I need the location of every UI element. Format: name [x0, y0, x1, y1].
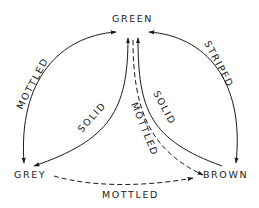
- diagram-svg: GREEN GREY BROWN MOTTLED STRIPED SOLID S…: [0, 0, 259, 208]
- label-grey-green-solid: SOLID: [75, 100, 108, 135]
- label-brown-green-solid: SOLID: [151, 89, 178, 127]
- node-grey: GREY: [14, 169, 46, 180]
- label-green-brown-mottled-dashed: MOTTLED: [129, 101, 161, 158]
- node-brown: BROWN: [203, 169, 248, 180]
- label-green-grey-mottled: MOTTLED: [14, 56, 50, 111]
- edge-green-grey-mottled: [23, 32, 116, 163]
- label-grey-brown-mottled: MOTTLED: [102, 189, 159, 200]
- node-green: GREEN: [112, 13, 153, 24]
- color-pattern-transition-diagram: GREEN GREY BROWN MOTTLED STRIPED SOLID S…: [0, 0, 259, 208]
- edge-grey-brown-mottled-dashed: [54, 176, 193, 185]
- edge-grey-green-solid: [34, 38, 128, 166]
- label-green-brown-striped: STRIPED: [202, 39, 236, 90]
